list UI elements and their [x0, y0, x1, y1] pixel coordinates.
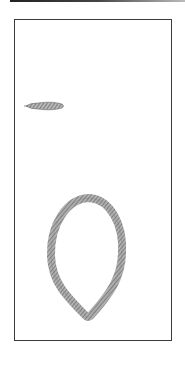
braid-fragment-icon [24, 99, 66, 113]
top-rule [10, 0, 185, 2]
braid-loop [44, 190, 128, 330]
braid-fragment [24, 99, 66, 113]
braid-loop-icon [44, 190, 128, 330]
